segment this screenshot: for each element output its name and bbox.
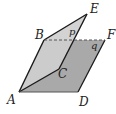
label-plane-p: p	[69, 26, 76, 37]
label-e: E	[89, 2, 99, 16]
label-b: B	[34, 28, 44, 42]
geometry-diagram: A B C D E F p q	[0, 0, 116, 114]
label-a: A	[6, 93, 16, 107]
label-d: D	[78, 95, 89, 109]
label-c: C	[58, 67, 67, 81]
label-plane-q: q	[91, 40, 97, 51]
label-f: F	[106, 28, 116, 42]
